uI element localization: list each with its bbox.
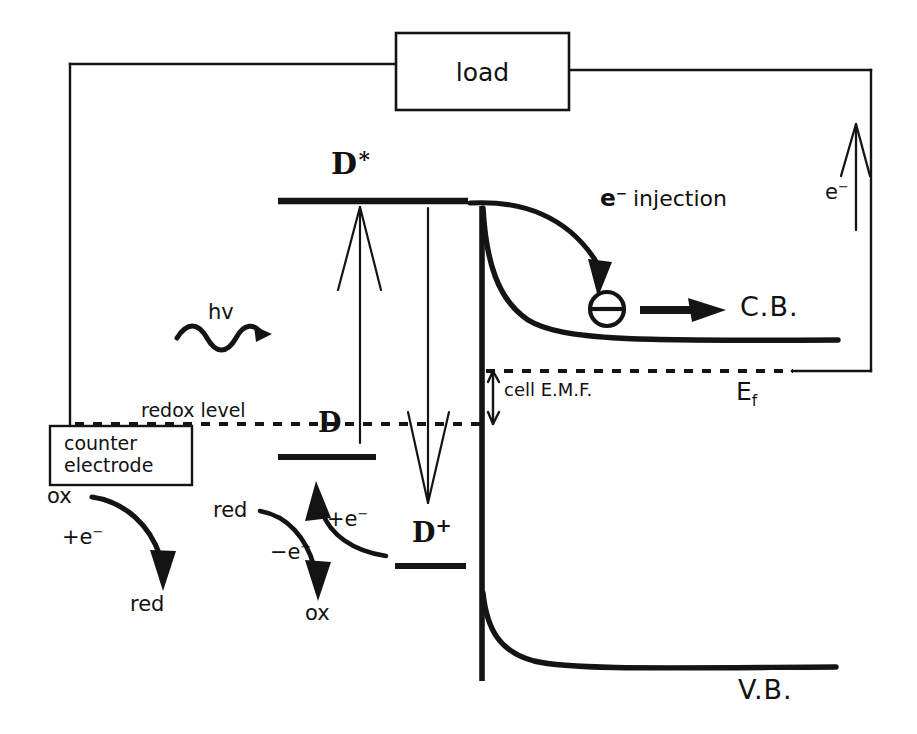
load-label: load	[396, 58, 569, 88]
cell-emf-arrow	[488, 371, 499, 424]
cell-emf-text: cell E.M.F.	[504, 379, 592, 400]
dye-ox-text: ox	[305, 601, 330, 625]
injection-label: e−injection	[600, 186, 727, 210]
relaxation-arrow	[408, 208, 449, 503]
cation-state-letter: D	[412, 517, 435, 548]
ground-state-letter: D	[318, 407, 341, 438]
counter-reaction-text: +e	[62, 525, 93, 549]
cation-state-label: D+	[412, 516, 451, 546]
external-electron-letter: e	[825, 180, 838, 204]
valence-band-edge	[483, 593, 836, 668]
counter-reaction-charge: −	[93, 524, 104, 539]
dye-loss-label: −e−	[270, 540, 311, 563]
photon-wavy-arrow	[177, 326, 272, 350]
external-circuit-wires	[70, 64, 871, 427]
injection-word: injection	[633, 186, 727, 211]
redox-level-text: redox level	[141, 399, 246, 421]
counter-reaction-label: +e−	[62, 525, 103, 548]
dye-loss-text: −e	[270, 540, 301, 564]
excitation-arrow	[338, 207, 381, 443]
external-electron-label: e−	[825, 180, 849, 203]
dye-gain-charge: −	[358, 506, 369, 521]
dye-red-text: red	[213, 498, 247, 522]
photon-label: hv	[208, 302, 234, 323]
ground-state-label: D	[318, 409, 341, 436]
dye-red-label: red	[213, 500, 247, 521]
counter-electrode-label: counter electrode	[52, 432, 190, 477]
external-electron-arrow	[841, 124, 870, 230]
dye-ox-label: ox	[305, 603, 330, 624]
dye-gain-label: +e−	[327, 507, 368, 530]
counter-red-text: red	[130, 592, 164, 616]
conduction-band-text: C.B.	[740, 291, 799, 322]
conduction-band-label: C.B.	[740, 293, 799, 320]
counter-ox-label: ox	[47, 486, 72, 507]
excited-state-letter: D	[331, 146, 357, 181]
fermi-letter: E	[736, 377, 752, 406]
dye-loss-charge: −	[301, 539, 312, 554]
dye-gain-text: +e	[327, 507, 358, 531]
injection-electron-letter: e	[600, 184, 616, 211]
fermi-level-label: Ef	[736, 379, 757, 410]
cell-emf-label: cell E.M.F.	[504, 381, 592, 399]
excited-state-label: D∗	[331, 145, 372, 179]
diagram-artwork	[0, 0, 917, 734]
electron-injection-arrow	[470, 203, 612, 297]
photon-text: hv	[208, 300, 234, 324]
load-text: load	[456, 58, 509, 87]
counter-electrode-line2: electrode	[64, 454, 190, 476]
injection-electron-charge: −	[616, 185, 627, 201]
excited-state-superscript: ∗	[357, 143, 372, 168]
diagram-canvas: load counter electrode redox level ox +e…	[0, 0, 917, 734]
cb-transport-arrow	[640, 298, 726, 322]
counter-red-label: red	[130, 594, 164, 615]
external-electron-charge: −	[838, 179, 849, 194]
valence-band-text: V.B.	[738, 674, 793, 705]
counter-electrode-line1: counter	[64, 432, 190, 454]
counter-redox-arrow	[92, 497, 176, 591]
cation-state-superscript: +	[435, 514, 451, 537]
fermi-subscript: f	[752, 392, 757, 410]
counter-ox-text: ox	[47, 484, 72, 508]
valence-band-label: V.B.	[738, 676, 793, 703]
redox-level-label: redox level	[141, 401, 246, 420]
electron-symbol	[590, 292, 624, 326]
